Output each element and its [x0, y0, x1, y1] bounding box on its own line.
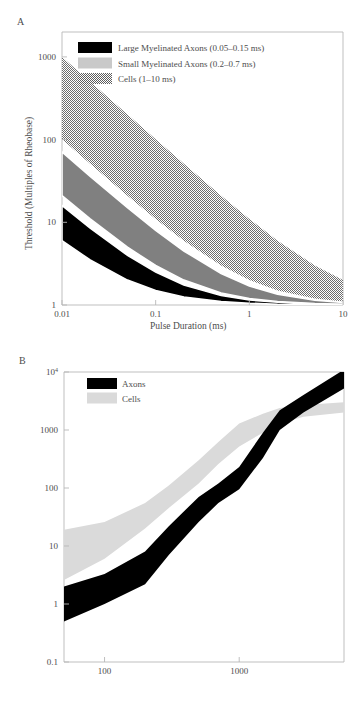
panel-b-data-bands: [64, 370, 344, 622]
panel-b-legend: Axons Cells: [87, 378, 146, 404]
y-tick-label: 10: [49, 541, 59, 551]
panel-a-letter: A: [17, 16, 24, 27]
y-tick-label: 100: [43, 135, 57, 145]
legend-swatch-cells: [87, 393, 117, 404]
panel-a-data-bands: [62, 57, 343, 305]
y-tick-label: 1000: [40, 425, 59, 435]
x-tick-label: 10: [339, 309, 349, 319]
panel-a-plot: 1101001000 0.010.1110 Large Myelinated A…: [0, 0, 363, 340]
legend-label-cells: Cells (1–10 ms): [118, 74, 176, 84]
panel-b-y-ticks: 0.11101001000104: [40, 367, 69, 668]
panel-b-x-ticks: 1001000: [98, 657, 249, 676]
panel-b: B 0.11101001000104 1001000: [0, 340, 363, 708]
x-tick-label: 0.1: [150, 309, 161, 319]
x-tick-label: 1: [247, 309, 252, 319]
panel-a-y-axis-label: Threshold (Multiples of Rheobase): [24, 117, 34, 250]
legend-label-axons: Axons: [122, 379, 146, 389]
band-axons: [64, 370, 344, 622]
legend-label-small-myelinated-axons: Small Myelinated Axons (0.2–0.7 ms): [118, 59, 256, 69]
y-tick-label: 1: [54, 599, 59, 609]
legend-swatch-cells: [78, 73, 112, 84]
panel-b-plot: 0.11101001000104 1001000 Axons Cells: [0, 340, 363, 708]
figure-container: A: [0, 0, 363, 708]
x-tick-label: 0.01: [54, 309, 70, 319]
y-tick-label: 10: [47, 217, 57, 227]
panel-a: A: [0, 0, 363, 340]
panel-a-x-axis-label: Pulse Duration (ms): [150, 321, 227, 331]
legend-label-cells: Cells: [122, 394, 141, 404]
band-cells: [64, 402, 344, 580]
panel-b-letter: B: [19, 355, 26, 366]
y-tick-label: 104: [46, 367, 58, 378]
x-tick-label: 100: [98, 666, 112, 676]
legend-swatch-large-myelinated-axons: [78, 42, 112, 53]
legend-label-large-myelinated-axons: Large Myelinated Axons (0.05–0.15 ms): [118, 43, 264, 53]
panel-a-legend: Large Myelinated Axons (0.05–0.15 ms) Sm…: [78, 42, 264, 84]
legend-swatch-axons: [87, 378, 117, 389]
x-tick-label: 1000: [230, 666, 249, 676]
y-tick-label: 1000: [38, 52, 57, 62]
legend-swatch-small-myelinated-axons: [78, 58, 112, 69]
y-tick-label: 100: [45, 483, 59, 493]
y-tick-label: 0.1: [47, 657, 58, 667]
